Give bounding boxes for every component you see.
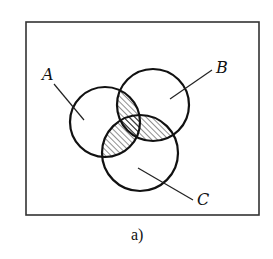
set-a-label: A bbox=[40, 65, 54, 84]
set-c-label: C bbox=[197, 190, 209, 209]
leader-line-a bbox=[54, 84, 84, 120]
set-b-label: B bbox=[215, 58, 228, 77]
figure-caption: a) bbox=[131, 226, 143, 244]
leader-line-c bbox=[138, 168, 193, 200]
leader-line-b bbox=[170, 70, 212, 99]
venn-diagram: A B C a) bbox=[0, 0, 273, 259]
